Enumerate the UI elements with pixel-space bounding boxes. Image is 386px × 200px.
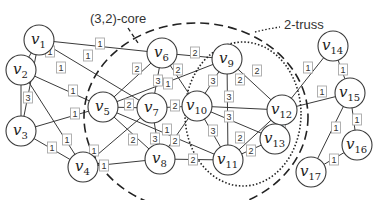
- svg-text:3: 3: [152, 134, 157, 144]
- edge-weight-label: 1: [353, 114, 362, 125]
- svg-text:1: 1: [305, 63, 310, 73]
- node-v3: v3: [6, 116, 36, 146]
- edge-weight-label: 1: [304, 62, 313, 73]
- svg-text:2: 2: [190, 155, 195, 165]
- svg-text:2: 2: [254, 66, 259, 76]
- edge-weight-label: 2: [236, 74, 245, 85]
- svg-text:2: 2: [248, 146, 253, 156]
- svg-text:2: 2: [172, 101, 177, 111]
- svg-text:2: 2: [175, 65, 180, 75]
- svg-text:1: 1: [49, 143, 54, 153]
- edge-weight-label: 2: [174, 64, 183, 75]
- edge-weight-label: 3: [225, 111, 234, 122]
- node-v8: v8: [145, 144, 175, 174]
- core-pointer: [128, 28, 138, 43]
- svg-text:3: 3: [210, 76, 215, 86]
- edge-weight-label: 3: [225, 91, 234, 102]
- svg-text:2: 2: [130, 135, 135, 145]
- svg-text:1: 1: [331, 155, 336, 165]
- node-v11: v11: [213, 145, 243, 175]
- svg-text:1: 1: [319, 87, 324, 97]
- edge-weight-label: 3: [151, 133, 160, 144]
- node-v14: v14: [318, 31, 348, 61]
- svg-text:1: 1: [58, 63, 63, 73]
- truss-pointer: [255, 27, 280, 32]
- graph-canvas: (3,2)-core 2-truss 111131111112221132232…: [0, 0, 386, 200]
- svg-text:2: 2: [237, 75, 242, 85]
- edge-weight-label: 2: [133, 63, 142, 74]
- svg-text:3: 3: [226, 112, 231, 122]
- node-v6: v6: [147, 38, 177, 68]
- truss-label: 2-truss: [284, 17, 324, 32]
- node-v2: v2: [6, 55, 36, 85]
- node-v4: v4: [68, 152, 98, 182]
- edge-weight-label: 1: [164, 78, 173, 89]
- node-v13: v13: [260, 124, 290, 154]
- edge-weight-label: 2: [171, 100, 180, 111]
- edge-weight-label: 2: [247, 145, 256, 156]
- svg-text:2: 2: [126, 100, 131, 110]
- edge-weight-label: 3: [209, 75, 218, 86]
- edge-weight-label: 1: [69, 85, 78, 96]
- edge-weight-label: 1: [163, 124, 172, 135]
- svg-text:1: 1: [85, 51, 90, 61]
- core-label: (3,2)-core: [90, 11, 146, 26]
- svg-text:2: 2: [237, 133, 242, 143]
- edge-weight-label: 1: [330, 154, 339, 165]
- node-v7: v7: [137, 93, 167, 123]
- svg-text:1: 1: [64, 135, 69, 145]
- edge-weight-label: 3: [154, 75, 163, 86]
- node-v9: v9: [212, 44, 242, 74]
- svg-text:2: 2: [192, 48, 197, 58]
- svg-text:2: 2: [172, 136, 177, 146]
- node-v15: v15: [335, 78, 365, 108]
- svg-text:1: 1: [72, 109, 77, 119]
- edge-weight-label: 2: [125, 99, 134, 110]
- edge-weight-label: 2: [191, 47, 200, 58]
- edge-weight-label: 1: [63, 134, 72, 145]
- svg-text:1: 1: [354, 115, 359, 125]
- node-v10: v10: [182, 91, 212, 121]
- graph-diagram: (3,2)-core 2-truss 111131111112221132232…: [0, 0, 386, 200]
- edge-weight-label: 1: [84, 50, 93, 61]
- edge-weight-label: 1: [339, 64, 348, 75]
- edge-weight-label: 2: [253, 65, 262, 76]
- edge-weight-label: 1: [71, 108, 80, 119]
- svg-text:1: 1: [333, 123, 338, 133]
- svg-text:2: 2: [134, 64, 139, 74]
- edge-weight-label: 2: [171, 135, 180, 146]
- node-v5: v5: [88, 92, 118, 122]
- edge-weight-label: 1: [318, 86, 327, 97]
- svg-text:3: 3: [226, 92, 231, 102]
- node-v1: v1: [24, 25, 54, 55]
- edge-weight-label: 1: [100, 160, 109, 171]
- node-v12: v12: [267, 95, 297, 125]
- svg-text:1: 1: [97, 39, 102, 49]
- svg-text:1: 1: [101, 161, 106, 171]
- edge-weight-label: 2: [236, 132, 245, 143]
- edge-weight-label: 1: [96, 38, 105, 49]
- svg-text:1: 1: [70, 86, 75, 96]
- svg-text:1: 1: [164, 125, 169, 135]
- edge-weight-label: 1: [48, 142, 57, 153]
- svg-text:3: 3: [155, 76, 160, 86]
- svg-text:1: 1: [340, 65, 345, 75]
- node-v16: v16: [342, 130, 372, 160]
- svg-text:3: 3: [25, 93, 30, 103]
- edge-weight-label: 1: [57, 62, 66, 73]
- edge-weight-label: 3: [24, 92, 33, 103]
- edge-weight-label: 2: [129, 134, 138, 145]
- edge-weight-label: 2: [189, 154, 198, 165]
- node-v17: v17: [296, 157, 326, 187]
- svg-text:1: 1: [165, 79, 170, 89]
- edge-weight-label: 1: [332, 122, 341, 133]
- edge-weight-label: 3: [209, 125, 218, 136]
- svg-text:3: 3: [210, 126, 215, 136]
